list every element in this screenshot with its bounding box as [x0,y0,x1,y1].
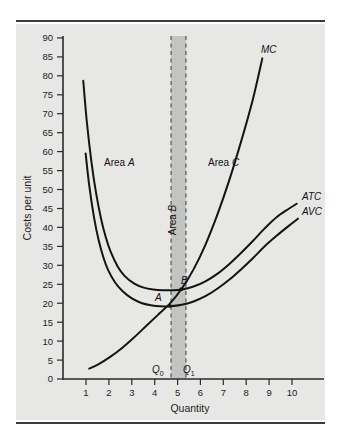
curve-label-avc: AVC [301,206,323,217]
cost-curves-chart: 0 5 10 15 20 25 30 35 40 45 50 55 60 65 … [0,0,341,436]
x-tick-label: 1 [83,387,88,398]
q1-label: Q1 [183,364,195,377]
point-a-label: A [154,292,162,303]
curves [83,58,298,368]
x-tick-label: 9 [266,387,271,398]
y-tick-label: 55 [42,165,53,176]
q0-subscript: 0 [160,370,164,377]
y-tick-label: 50 [42,184,53,195]
y-tick-label: 30 [42,260,53,271]
x-tick-label: 5 [175,387,180,398]
area-a-label: Area A [104,157,135,168]
point-b-marker [179,287,183,291]
area-b-text: Area [167,211,178,235]
x-tick-label: 2 [106,387,111,398]
y-tick-label: 15 [42,317,53,328]
curve-label-mc: MC [261,44,277,55]
x-tick-label: 3 [129,387,134,398]
y-tick-label: 85 [42,51,53,62]
area-b-emphasis: B [167,204,178,211]
q0-label: Q0 [152,364,164,377]
area-a-text: Area [104,157,128,168]
y-tick-label: 10 [42,336,53,347]
area-c-text: Area [208,157,232,168]
x-axis: 1 2 3 4 5 6 7 8 9 10 Quantity [63,379,324,414]
curve-atc [83,81,296,291]
y-axis-title: Costs per unit [21,176,33,241]
area-c-label: Area C [208,157,240,168]
x-axis-title: Quantity [170,402,210,414]
area-c-emphasis: C [232,157,240,168]
point-b-label: B [181,275,188,286]
x-tick-label: 7 [221,387,226,398]
curve-label-atc: ATC [301,191,322,202]
y-axis: 0 5 10 15 20 25 30 35 40 45 50 55 60 65 … [21,32,63,384]
cost-curves-figure: 0 5 10 15 20 25 30 35 40 45 50 55 60 65 … [0,0,341,436]
area-b-label: Area B [167,204,178,235]
x-axis-tick-labels: 1 2 3 4 5 6 7 8 9 10 [83,387,297,398]
q1-subscript: 1 [191,370,195,377]
curve-avc [86,153,298,306]
curve-labels: MC ATC AVC [261,44,323,217]
y-tick-label: 80 [42,70,53,81]
y-tick-label: 0 [48,373,53,384]
x-axis-ticks [86,379,292,385]
x-tick-label: 8 [244,387,249,398]
y-tick-label: 5 [48,355,53,366]
x-tick-label: 6 [198,387,203,398]
y-tick-label: 40 [42,222,53,233]
y-tick-label: 25 [42,279,53,290]
y-tick-label: 35 [42,241,53,252]
y-tick-label: 65 [42,127,53,138]
area-a-emphasis: A [127,157,135,168]
x-tick-label: 4 [152,387,157,398]
y-tick-label: 70 [42,108,53,119]
y-tick-label: 90 [42,32,53,43]
point-a-marker [168,304,172,308]
x-tick-label: 10 [287,387,298,398]
y-tick-label: 20 [42,298,53,309]
y-tick-label: 45 [42,203,53,214]
y-axis-ticks [57,38,63,379]
y-axis-tick-labels: 0 5 10 15 20 25 30 35 40 45 50 55 60 65 … [42,32,53,384]
y-tick-label: 60 [42,146,53,157]
y-tick-label: 75 [42,89,53,100]
